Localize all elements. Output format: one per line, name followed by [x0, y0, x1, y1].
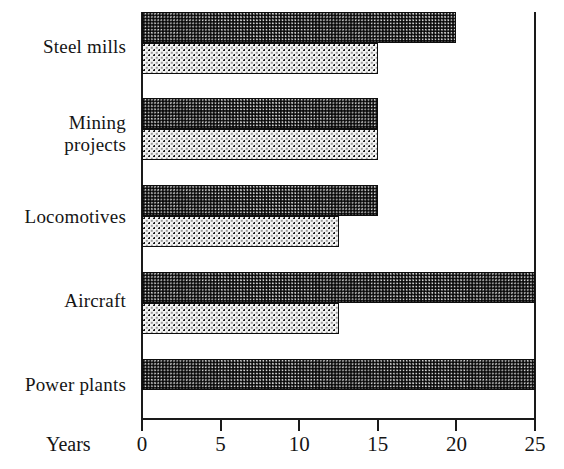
x-tick-label-15: 15: [358, 432, 398, 456]
x-tick-label-25: 25: [515, 432, 555, 456]
bar-locomotives-series-a: [142, 185, 378, 216]
category-label-aircraft: Aircraft: [0, 290, 126, 312]
x-tick-0: [141, 420, 143, 431]
category-label-steel-mills: Steel mills: [0, 36, 126, 58]
x-tick-label-20: 20: [436, 432, 476, 456]
plot-area: 0 5 10 15 20 25: [142, 0, 535, 420]
bar-locomotives-series-b: [142, 216, 339, 247]
category-label-locomotives: Locomotives: [0, 206, 126, 228]
bar-steel-mills-series-b: [142, 43, 378, 74]
category-axis-labels: Steel mills Mining projects Locomotives …: [0, 0, 132, 420]
x-tick-25: [534, 420, 536, 431]
category-label-mining-projects: Mining projects: [0, 112, 126, 156]
x-tick-label-0: 0: [122, 432, 162, 456]
bar-aircraft-series-b: [142, 303, 339, 334]
x-tick-5: [220, 420, 222, 431]
bar-steel-mills-series-a: [142, 12, 456, 43]
x-axis-line: [141, 418, 536, 420]
x-tick-label-5: 5: [201, 432, 241, 456]
x-tick-15: [377, 420, 379, 431]
bar-chart: Steel mills Mining projects Locomotives …: [0, 0, 564, 469]
x-tick-10: [298, 420, 300, 431]
x-tick-20: [455, 420, 457, 431]
bar-mining-projects-series-a: [142, 98, 378, 129]
bar-power-plants-series-a: [142, 359, 535, 390]
category-label-power-plants: Power plants: [0, 374, 126, 396]
bar-aircraft-series-a: [142, 272, 535, 303]
x-axis-title: Years: [46, 432, 91, 456]
bar-mining-projects-series-b: [142, 129, 378, 160]
x-tick-label-10: 10: [279, 432, 319, 456]
